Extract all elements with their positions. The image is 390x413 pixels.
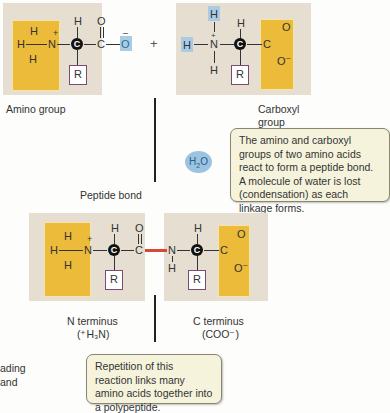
atom-o: O (277, 55, 286, 67)
bond (240, 29, 241, 38)
bond (59, 250, 83, 251)
side-text: and (0, 376, 18, 389)
atom-o: O (282, 21, 291, 33)
atom-h: H (183, 39, 191, 51)
dipeptide-right-panel (164, 213, 268, 301)
bond (121, 250, 134, 251)
bond (214, 22, 215, 32)
bond (194, 44, 208, 45)
atom-h: H (74, 15, 82, 27)
bond (114, 234, 115, 244)
atom-o: O (97, 15, 106, 27)
bond (177, 250, 190, 251)
charge-minus: – (123, 27, 128, 39)
charge-plus: + (87, 233, 92, 245)
atom-h: H (29, 53, 37, 65)
alpha-carbon: C (71, 38, 83, 50)
bond (220, 44, 234, 45)
atom-o: O (121, 38, 130, 50)
atom-n: N (168, 244, 176, 256)
repetition-callout: Repetition of this reaction links many a… (86, 354, 222, 404)
atom-c: C (97, 38, 105, 50)
bond (114, 256, 115, 270)
charge-plus: + (53, 27, 58, 39)
atom-h: H (64, 259, 72, 271)
bond (204, 250, 219, 251)
atom-h: H (111, 222, 119, 234)
atom-h: H (210, 8, 218, 20)
n-terminus-label: N terminus (67, 315, 118, 328)
plus-sign: + (150, 38, 158, 50)
alpha-carbon: C (234, 38, 246, 50)
atom-h: H (30, 25, 38, 37)
atom-c: C (135, 244, 143, 256)
atom-n: N (84, 244, 92, 256)
atom-o: O (135, 222, 144, 234)
atom-h: H (50, 244, 58, 256)
atom-h: H (17, 38, 25, 50)
repetition-text: Repetition of this reaction links many a… (95, 360, 212, 413)
bond (77, 27, 78, 38)
atom-h: H (194, 222, 202, 234)
peptide-bond-label: Peptide bond (80, 189, 142, 202)
bond (77, 50, 78, 65)
r-group-box: R (105, 270, 123, 290)
side-text: ading (0, 362, 26, 375)
charge-minus: – (286, 52, 290, 64)
r-group-box: R (69, 65, 87, 85)
reaction-arrow (154, 98, 156, 182)
repetition-arrow (154, 295, 156, 342)
water-molecule: H2O (185, 151, 212, 173)
bond (57, 44, 70, 45)
r-group-box: R (188, 270, 206, 290)
bond (197, 234, 198, 244)
bond (197, 256, 198, 270)
bond (93, 250, 107, 251)
bond (84, 44, 96, 45)
c-terminus-label: C terminus (193, 315, 244, 328)
amino-group-label: Amino group (6, 103, 66, 116)
atom-c: C (220, 244, 228, 256)
atom-h: H (168, 262, 176, 274)
double-bond (103, 27, 104, 38)
alpha-carbon: C (191, 244, 203, 256)
water-o: O (200, 156, 208, 167)
bond (214, 51, 215, 63)
bond (26, 44, 47, 45)
bond (247, 44, 262, 45)
n-terminus-formula: (⁺H₃N) (77, 328, 109, 341)
alpha-carbon: C (108, 244, 120, 256)
atom-n: N (48, 38, 56, 50)
atom-h: H (237, 17, 245, 29)
condensation-text: The amino and carboxyl groups of two ami… (239, 134, 373, 214)
peptide-bond (145, 249, 167, 252)
atom-o: O (234, 262, 243, 274)
double-bond (141, 234, 142, 244)
double-bond (100, 27, 101, 38)
atom-h: H (64, 230, 72, 242)
bond (240, 50, 241, 65)
double-bond (138, 234, 139, 244)
charge-minus: – (243, 259, 247, 271)
bond (106, 44, 120, 45)
condensation-callout: The amino and carboxyl groups of two ami… (230, 128, 390, 202)
c-terminus-formula: (COO⁻) (202, 328, 239, 341)
atom-c: C (263, 38, 271, 50)
atom-h: H (210, 64, 218, 76)
carboxyl-group-label: Carboxyl (258, 103, 299, 116)
r-group-box: R (231, 65, 249, 85)
